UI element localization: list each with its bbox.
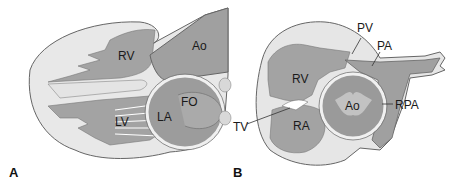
label-rv-a: RV <box>118 49 134 63</box>
label-ao-b: Ao <box>345 99 360 113</box>
panel-b: PV PA RV Ao RPA TV RA B <box>233 21 445 180</box>
panel-label-b: B <box>233 165 242 180</box>
label-la: LA <box>157 110 172 124</box>
label-pv: PV <box>357 21 373 35</box>
label-pa: PA <box>377 39 392 53</box>
label-lv: LV <box>115 115 129 129</box>
label-ra: RA <box>293 119 310 133</box>
panel-a: RV Ao FO LA LV A <box>9 8 231 180</box>
heart-diagram: RV Ao FO LA LV A PV PA RV Ao RPA <box>0 0 459 183</box>
label-rv-b: RV <box>292 72 308 86</box>
label-rpa: RPA <box>395 98 419 112</box>
label-ao-a: Ao <box>192 39 207 53</box>
label-tv: TV <box>233 120 248 134</box>
panel-label-a: A <box>9 165 19 180</box>
label-fo: FO <box>181 95 198 109</box>
